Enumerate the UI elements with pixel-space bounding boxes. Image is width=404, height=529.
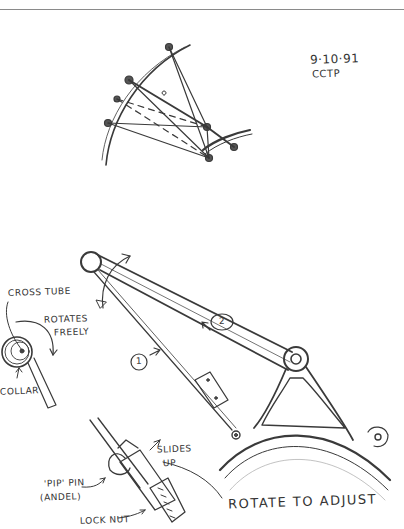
pip-pin-label: 'PIP' PIN — [44, 477, 85, 488]
rotates-label: ROTATES — [44, 313, 88, 325]
collar-label: COLLAR — [0, 385, 39, 396]
main-assembly — [81, 252, 390, 500]
member-2-label: 2 — [219, 316, 226, 326]
member-1-label: 1 — [136, 356, 143, 366]
up-label: UP — [163, 458, 176, 468]
lock-nut-label: LOCK NUT — [80, 514, 130, 526]
sketch-drawing — [0, 0, 404, 529]
slides-label: SLIDES — [157, 443, 192, 454]
date-label: 9·10·91 — [310, 51, 360, 67]
initials-label: CCTP — [312, 68, 340, 80]
adjuster-detail — [82, 418, 222, 522]
truss-detail — [102, 44, 252, 166]
pip-pin-maker-label: (ANDEL) — [40, 491, 81, 502]
freely-label: FREELY — [54, 326, 89, 337]
